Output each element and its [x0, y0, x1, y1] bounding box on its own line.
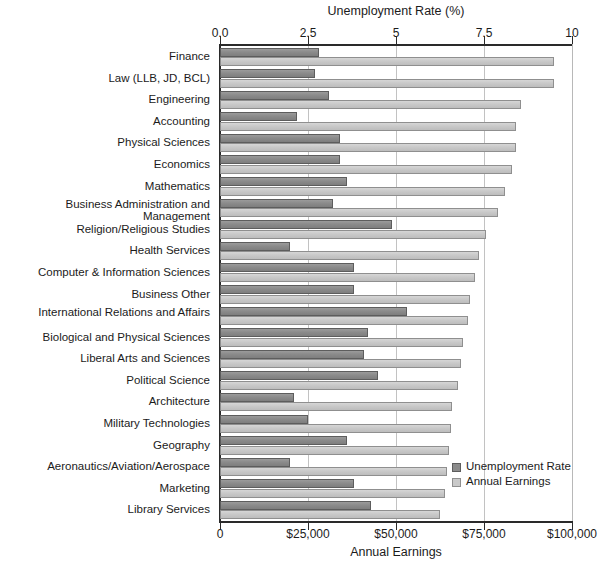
category-label: Marketing: [160, 482, 211, 494]
bar-unemployment-rate: [220, 350, 364, 359]
category-label: Finance: [169, 50, 210, 62]
category-axis-labels: FinanceLaw (LLB, JD, BCL)EngineeringAcco…: [0, 46, 215, 521]
bar-annual-earnings: [220, 187, 505, 196]
category-label: Physical Sciences: [117, 136, 210, 148]
category-label: Religion/Religious Studies: [76, 223, 210, 235]
category-label: Accounting: [153, 115, 210, 127]
bar-annual-earnings: [220, 251, 479, 260]
bar-unemployment-rate: [220, 134, 340, 143]
top-tick-mark: [220, 36, 221, 44]
bar-annual-earnings: [220, 100, 521, 109]
bar-annual-earnings: [220, 143, 516, 152]
bottom-axis-title: Annual Earnings: [220, 545, 572, 559]
category-label: Engineering: [149, 93, 210, 105]
chart-legend: Unemployment RateAnnual Earnings: [452, 460, 592, 489]
top-tick-mark: [308, 36, 309, 44]
bar-annual-earnings: [220, 489, 445, 498]
bar-annual-earnings: [220, 510, 440, 519]
bar-annual-earnings: [220, 316, 468, 325]
bar-unemployment-rate: [220, 177, 347, 186]
bar-annual-earnings: [220, 424, 451, 433]
bottom-tick-mark: [308, 522, 309, 530]
bar-unemployment-rate: [220, 307, 407, 316]
bar-annual-earnings: [220, 381, 458, 390]
bar-unemployment-rate: [220, 501, 371, 510]
legend-item: Annual Earnings: [452, 475, 592, 488]
bottom-tick-mark: [220, 522, 221, 530]
bar-unemployment-rate: [220, 371, 378, 380]
category-label: Economics: [154, 158, 210, 170]
bar-unemployment-rate: [220, 199, 333, 208]
category-label: Business Other: [131, 288, 210, 300]
bar-annual-earnings: [220, 359, 461, 368]
category-label: Computer & Information Sciences: [38, 266, 210, 278]
category-label: Geography: [153, 439, 210, 451]
legend-label: Annual Earnings: [466, 475, 592, 488]
bar-unemployment-rate: [220, 263, 354, 272]
bar-unemployment-rate: [220, 48, 319, 57]
category-label: Aeronautics/Aviation/Aerospace: [47, 460, 210, 472]
bar-annual-earnings: [220, 338, 463, 347]
bar-unemployment-rate: [220, 155, 340, 164]
bar-unemployment-rate: [220, 479, 354, 488]
legend-label: Unemployment Rate: [466, 460, 592, 473]
legend-swatch-icon: [452, 463, 461, 472]
category-label: Law (LLB, JD, BCL): [108, 72, 210, 84]
bar-unemployment-rate: [220, 285, 354, 294]
bar-annual-earnings: [220, 122, 516, 131]
bar-unemployment-rate: [220, 393, 294, 402]
bar-unemployment-rate: [220, 242, 290, 251]
top-tick-mark: [396, 36, 397, 44]
right-plot-border: [572, 44, 573, 523]
top-axis-tick-labels: 0.02.557.510: [0, 26, 603, 40]
category-label: Architecture: [149, 395, 210, 407]
bar-unemployment-rate: [220, 112, 297, 121]
bar-annual-earnings: [220, 446, 449, 455]
bar-annual-earnings: [220, 402, 452, 411]
bar-unemployment-rate: [220, 91, 329, 100]
bar-annual-earnings: [220, 295, 470, 304]
bar-unemployment-rate: [220, 328, 368, 337]
bar-unemployment-rate: [220, 436, 347, 445]
bar-annual-earnings: [220, 467, 447, 476]
bar-annual-earnings: [220, 230, 486, 239]
category-label: Library Services: [128, 503, 210, 515]
legend-item: Unemployment Rate: [452, 460, 592, 473]
bar-annual-earnings: [220, 273, 475, 282]
bar-annual-earnings: [220, 208, 498, 217]
top-tick-mark: [572, 36, 573, 44]
bottom-tick-mark: [484, 522, 485, 530]
top-axis-title: Unemployment Rate (%): [220, 4, 572, 18]
category-label: Political Science: [126, 374, 210, 386]
source-note: [28, 560, 548, 567]
bar-unemployment-rate: [220, 69, 315, 78]
category-label: Biological and Physical Sciences: [43, 331, 210, 343]
chart-container: Unemployment Rate (%) 0.02.557.510 Finan…: [0, 0, 603, 567]
category-label: Business Administration and Management: [5, 198, 210, 222]
bottom-axis-tick-labels: 0$25,000$50,000$75,000$100,000: [0, 527, 603, 541]
plot-area: [220, 46, 572, 521]
bottom-tick-mark: [396, 522, 397, 530]
category-label: International Relations and Affairs: [5, 306, 210, 318]
bar-unemployment-rate: [220, 458, 290, 467]
bar-unemployment-rate: [220, 415, 308, 424]
category-label: Liberal Arts and Sciences: [80, 352, 210, 364]
category-label: Military Technologies: [103, 417, 210, 429]
category-label: Mathematics: [145, 180, 210, 192]
top-tick-mark: [484, 36, 485, 44]
bar-annual-earnings: [220, 165, 512, 174]
bar-unemployment-rate: [220, 220, 392, 229]
category-label: Health Services: [129, 244, 210, 256]
bar-annual-earnings: [220, 57, 554, 66]
bar-annual-earnings: [220, 79, 554, 88]
legend-swatch-icon: [452, 478, 461, 487]
bottom-tick-mark: [572, 522, 573, 530]
